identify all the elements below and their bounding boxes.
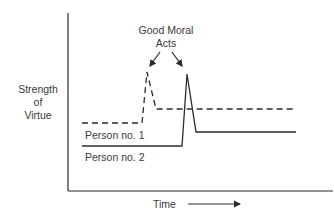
y-axis-label-line-2: of	[34, 96, 43, 108]
arrow-to-person-2-peak	[172, 52, 182, 66]
series-person-1-label: Person no. 1	[85, 129, 145, 141]
y-axis-label-line-3: Virtue	[24, 109, 51, 121]
annotation-line-2: Acts	[156, 37, 176, 49]
annotation-line-1: Good Moral	[139, 24, 194, 36]
virtue-chart: Good Moral Acts Strength of Virtue Perso…	[0, 0, 334, 213]
y-axis-label-line-1: Strength	[18, 83, 58, 95]
x-axis-label: Time	[153, 198, 176, 210]
series-person-2-label: Person no. 2	[85, 151, 145, 163]
arrow-to-person-1-peak	[150, 52, 160, 66]
